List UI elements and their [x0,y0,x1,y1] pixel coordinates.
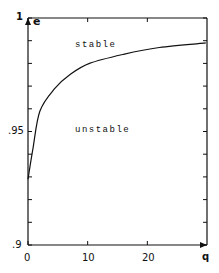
y-tick-label-09: .9 [12,240,22,250]
y-axis-label-e: e [33,16,40,27]
x-tick-label-0: 0 [24,253,30,263]
x-tick-label-10: 10 [82,253,95,263]
region-label-stable: stable [75,41,116,50]
y-tick-label-1: 1 [16,12,23,22]
stability-curve [28,43,206,179]
region-label-unstable: unstable [75,126,130,135]
x-axis-label-q: q [202,252,209,262]
x-tick-label-20: 20 [142,253,155,263]
y-tick-label-095: .95 [8,126,24,136]
